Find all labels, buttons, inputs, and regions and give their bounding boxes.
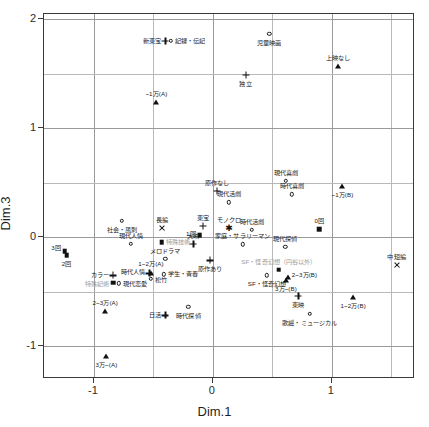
gridline-horizontal (44, 292, 413, 293)
data-point-marker (190, 240, 197, 247)
data-point-label: 大映 (187, 233, 199, 239)
data-point-marker (64, 253, 69, 258)
data-point-marker (111, 280, 116, 285)
data-point-label: 1~2万(A) (138, 261, 163, 267)
data-point-label: 松竹 (155, 277, 167, 283)
data-point-label: SF・怪奇幻想（円谷以外） (241, 259, 316, 265)
y-tick-label: 2 (30, 12, 36, 24)
data-point-label: 現代恋愛 (123, 281, 147, 287)
data-point-marker (168, 38, 172, 42)
data-point-marker (109, 272, 116, 279)
data-point-label: 3万~(A) (95, 362, 117, 368)
data-point-label: 学生・青春 (168, 271, 199, 277)
data-point-label: 2~3万(A) (93, 300, 118, 306)
data-point-marker (120, 219, 124, 223)
data-point-label: 2回 (62, 261, 72, 267)
gridline-vertical (272, 14, 273, 377)
data-point-marker (242, 72, 249, 79)
data-point-label: 上映なし (326, 55, 350, 61)
data-point-marker (159, 240, 164, 245)
x-axis-title: Dim.1 (0, 404, 429, 419)
data-point-label: 1~2万(B) (340, 303, 365, 309)
gridline-horizontal (44, 128, 413, 129)
x-tick (93, 378, 94, 383)
data-point-marker (283, 244, 287, 248)
data-point-label: 現代探偵 (273, 236, 297, 242)
y-axis-title: Dim.3 (0, 0, 16, 427)
scatter-plot-figure: Dim.3 新東宝記録・伝記児童映画上映なし独立~1万(A)現代喜劇原作なし時代… (0, 0, 429, 427)
data-point-marker (163, 256, 167, 260)
data-point-marker (393, 262, 400, 269)
y-tick (38, 345, 43, 346)
data-point-marker (117, 281, 121, 285)
data-point-label: 日活 (149, 312, 161, 318)
gridline-horizontal (44, 346, 413, 347)
data-point-label: 0回 (314, 218, 324, 224)
data-point-marker (240, 242, 244, 246)
data-point-label: 時代探偵 (176, 313, 200, 319)
data-point-marker (103, 353, 109, 358)
data-point-marker (250, 228, 254, 232)
data-point-marker (267, 31, 271, 35)
data-point-marker (339, 184, 345, 189)
data-point-label: 歌謡・ミュージカル (282, 320, 337, 326)
data-point-label: 2~3万(B) (292, 272, 317, 278)
data-point-label: 現代活劇 (217, 191, 241, 197)
data-point-marker (277, 267, 282, 272)
data-point-marker (153, 99, 159, 104)
plot-area: 新東宝記録・伝記児童映画上映なし独立~1万(A)現代喜劇原作なし時代喜劇~1万(… (43, 13, 414, 378)
gridline-vertical (153, 14, 154, 377)
data-point-label: 独立 (239, 81, 251, 87)
gridline-vertical (391, 14, 392, 377)
data-point-label: 現代人情 (119, 233, 143, 239)
y-tick-label: 0 (30, 230, 36, 242)
data-point-label: ~1万(A) (145, 91, 167, 97)
data-point-label: 原作あり (198, 266, 222, 272)
data-point-marker (317, 227, 322, 232)
data-point-marker: ✱ (225, 224, 233, 232)
x-tick (331, 378, 332, 383)
y-tick (38, 236, 43, 237)
data-point-marker (350, 294, 356, 299)
data-point-label: 時代人情 (121, 269, 145, 275)
data-point-label: 家庭・サラリーマン (215, 233, 270, 239)
x-tick (212, 378, 213, 383)
data-point-label: 特殊技術 (166, 239, 190, 245)
y-axis-title-label: Dim.3 (0, 197, 14, 231)
data-point-marker (290, 192, 294, 196)
data-point-marker (199, 222, 206, 229)
x-tick-label: 1 (328, 384, 334, 396)
data-point-marker (159, 225, 166, 232)
x-tick-label: 0 (209, 384, 215, 396)
data-point-label: 東宝 (197, 215, 209, 221)
gridline-horizontal (44, 19, 413, 20)
data-point-label: 現代喜劇 (274, 170, 298, 176)
data-point-marker (295, 293, 302, 300)
data-point-marker (186, 305, 190, 309)
data-point-marker (206, 257, 213, 264)
data-point-label: モノクロ (217, 217, 241, 223)
data-point-label: 時代活劇 (240, 219, 264, 225)
data-point-label: 長編 (156, 217, 168, 223)
data-point-label: ~1万(B) (332, 192, 354, 198)
x-tick-label: -1 (88, 384, 98, 396)
data-point-label: 3万~(B) (275, 286, 297, 292)
y-tick-label: 1 (30, 121, 36, 133)
data-point-label: 新東宝 (143, 38, 161, 44)
y-tick-label: -1 (26, 339, 36, 351)
data-point-label: 3回 (51, 245, 61, 251)
gridline-horizontal (44, 74, 413, 75)
data-point-label: 中短編 (387, 254, 405, 260)
data-point-label: 記録・伝記 (175, 38, 206, 44)
data-point-marker (335, 63, 341, 68)
data-point-marker (283, 277, 289, 282)
gridline-vertical (213, 14, 214, 377)
data-point-label: 原作なし (205, 180, 229, 186)
data-point-label: カラー (91, 272, 109, 278)
data-point-label: 特殊記術 (85, 281, 109, 287)
data-point-marker (102, 308, 108, 313)
data-point-label: 児童映画 (257, 40, 281, 46)
data-point-marker (308, 311, 312, 315)
gridline-vertical (94, 14, 95, 377)
data-point-label: 東映 (292, 302, 304, 308)
